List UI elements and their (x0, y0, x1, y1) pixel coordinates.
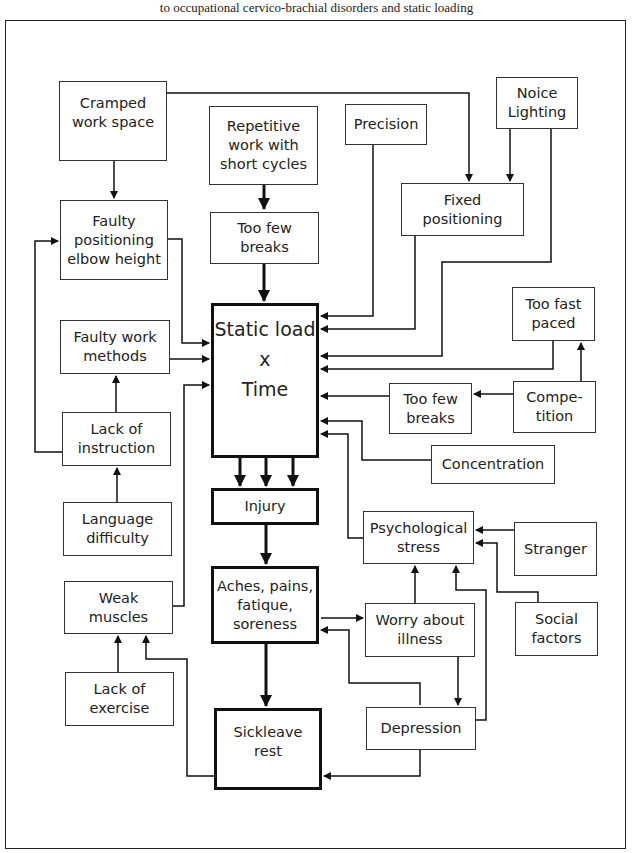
node-stranger: Stranger (514, 522, 597, 576)
node-language-difficulty: Language difficulty (63, 502, 172, 556)
node-static-load-time: Static load x Time (211, 303, 319, 458)
node-faulty-positioning: Faulty positioning elbow height (60, 200, 168, 280)
node-cramped-work-space: Cramped work space (59, 81, 167, 161)
node-depression: Depression (366, 707, 476, 750)
node-psychological-stress: Psychological stress (363, 511, 474, 564)
node-social-factors: Social factors (515, 602, 598, 656)
node-worry-about-illness: Worry about illness (365, 603, 475, 657)
node-noise-lighting: Noice Lighting (496, 77, 578, 129)
node-fixed-positioning: Fixed positioning (401, 183, 524, 236)
node-competition: Compe- tition (513, 381, 596, 433)
node-too-few-breaks-top: Too few breaks (210, 212, 319, 264)
node-sickleave-rest: Sickleave rest (214, 708, 322, 790)
node-too-few-breaks-right: Too few breaks (389, 383, 472, 434)
node-concentration: Concentration (431, 445, 555, 484)
node-injury: Injury (211, 488, 319, 525)
node-too-fast-paced: Too fast paced (512, 287, 595, 341)
node-faulty-work-methods: Faulty work methods (60, 320, 170, 374)
node-weak-muscles: Weak muscles (64, 581, 173, 634)
node-lack-of-instruction: Lack of instruction (62, 412, 171, 466)
node-aches-pains: Aches, pains, fatique, soreness (211, 566, 319, 644)
node-lack-of-exercise: Lack of exercise (65, 672, 174, 726)
node-repetitive-work: Repetitive work with short cycles (209, 106, 318, 185)
node-precision: Precision (345, 104, 427, 145)
